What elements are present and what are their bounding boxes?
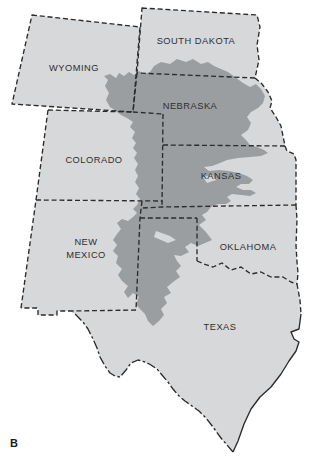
high-plains-aquifer-map: WYOMING SOUTH DAKOTA NEBRASKA COLORADO K… xyxy=(0,0,321,464)
label-texas: TEXAS xyxy=(204,322,237,332)
label-new-mexico-line1: NEW xyxy=(74,237,97,247)
panel-label: B xyxy=(10,437,18,449)
map-svg: WYOMING SOUTH DAKOTA NEBRASKA COLORADO K… xyxy=(0,0,321,464)
label-new-mexico-line2: MEXICO xyxy=(66,250,106,260)
label-south-dakota: SOUTH DAKOTA xyxy=(157,36,236,46)
label-wyoming: WYOMING xyxy=(49,63,99,73)
label-colorado: COLORADO xyxy=(65,155,122,165)
label-oklahoma: OKLAHOMA xyxy=(220,242,277,252)
label-kansas: KANSAS xyxy=(201,171,242,181)
label-nebraska: NEBRASKA xyxy=(163,101,218,111)
